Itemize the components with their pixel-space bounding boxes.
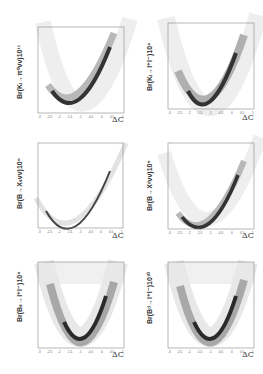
svg-text:-0.5: -0.5 — [88, 350, 94, 354]
svg-text:-1: -1 — [209, 350, 212, 354]
x-axis-label: ΔC — [112, 115, 124, 124]
svg-text:-3: -3 — [168, 111, 171, 115]
svg-text:0: 0 — [231, 350, 233, 354]
x-axis-label: ΔC — [112, 231, 124, 240]
svg-text:-0.5: -0.5 — [218, 231, 224, 235]
svg-text:-2: -2 — [58, 350, 61, 354]
svg-text:-2.5: -2.5 — [177, 111, 183, 115]
x-ticks: -3-2.5-2-1.5-1-0.500.51 — [38, 230, 123, 234]
plot-area: -3-2.5-2-1.5-1-0.500.51 — [168, 143, 254, 229]
svg-text:-2.5: -2.5 — [47, 115, 53, 119]
plot-area: -3-2.5-2-1.5-1-0.500.51 — [38, 262, 124, 348]
panel-bxsnunu: -3-2.5-2-1.5-1-0.500.51 Br(B→Xₛνν)10⁵ ΔC — [38, 143, 123, 228]
x-axis-label: ΔC — [242, 350, 254, 359]
svg-text:-1: -1 — [209, 111, 212, 115]
svg-text:-1: -1 — [209, 231, 212, 235]
plot-area: -3-2.5-2-1.5-1-0.500.51 — [168, 262, 254, 348]
svg-text:-1.5: -1.5 — [197, 231, 203, 235]
plot-area: -3-2.5-2-1.5-1-0.500.51 — [38, 143, 123, 228]
svg-text:-2: -2 — [188, 111, 191, 115]
svg-text:-2: -2 — [58, 230, 61, 234]
panel-kll: -3-2.5-2-1.5-1-0.500.51 Br(Kₗ→l⁺l⁻)10⁹ Δ… — [168, 23, 254, 109]
svg-text:0: 0 — [101, 115, 103, 119]
svg-text:-3: -3 — [38, 350, 41, 354]
svg-text:-1.5: -1.5 — [197, 350, 203, 354]
svg-text:-1.5: -1.5 — [67, 350, 73, 354]
svg-text:0: 0 — [100, 230, 102, 234]
svg-text:-2.5: -2.5 — [177, 231, 183, 235]
y-axis-label: Br(B→Xᵈνν)10⁵ — [146, 160, 153, 211]
panel-bxdnunu: -3-2.5-2-1.5-1-0.500.51 Br(B→Xᵈνν)10⁵ ΔC — [168, 143, 254, 229]
svg-text:0: 0 — [231, 111, 233, 115]
svg-text:-2.5: -2.5 — [47, 230, 53, 234]
panel-klpinunu: -3-2.5-2-1.5-1-0.500.51 Br(Kₗ→π⁰νν)10¹¹ … — [38, 27, 124, 113]
y-axis-label: Br(Bₛ→l⁺l⁻)10⁸ — [16, 272, 24, 322]
svg-text:-1.5: -1.5 — [67, 230, 73, 234]
svg-text:-1.5: -1.5 — [197, 111, 203, 115]
panel-bsll: -3-2.5-2-1.5-1-0.500.51 Br(Bₛ→l⁺l⁻)10⁸ Δ… — [38, 262, 124, 348]
y-axis-label: Br(B→Xₛνν)10⁵ — [16, 158, 24, 209]
svg-text:-2.5: -2.5 — [47, 350, 53, 354]
svg-text:-0.5: -0.5 — [88, 115, 94, 119]
svg-text:-2: -2 — [188, 231, 191, 235]
svg-text:-3: -3 — [168, 350, 171, 354]
svg-text:-1: -1 — [79, 115, 82, 119]
svg-text:0: 0 — [231, 231, 233, 235]
panel-bdll: -3-2.5-2-1.5-1-0.500.51 Br(Bᵈ→l⁺l⁻)10¹⁰ … — [168, 262, 254, 348]
y-axis-label: Br(Kₗ→π⁰νν)10¹¹ — [16, 45, 24, 99]
x-axis-label: ΔC — [112, 350, 124, 359]
svg-text:-2: -2 — [58, 115, 61, 119]
plot-area: -3-2.5-2-1.5-1-0.500.51 — [168, 23, 254, 109]
svg-text:-0.5: -0.5 — [218, 111, 224, 115]
svg-text:-1.5: -1.5 — [67, 115, 73, 119]
x-axis-label: ΔC — [242, 231, 254, 240]
svg-text:-3: -3 — [168, 231, 171, 235]
x-axis-label: ΔC — [242, 113, 254, 122]
svg-text:-0.5: -0.5 — [218, 350, 224, 354]
plot-area: -3-2.5-2-1.5-1-0.500.51 — [38, 27, 124, 113]
svg-text:-2.5: -2.5 — [177, 350, 183, 354]
y-axis-label: Br(Bᵈ→l⁺l⁻)10¹⁰ — [146, 272, 154, 324]
svg-text:-1: -1 — [79, 350, 82, 354]
svg-text:-1: -1 — [79, 230, 82, 234]
svg-text:-3: -3 — [38, 230, 41, 234]
y-axis-label: Br(Kₗ→l⁺l⁻)10⁹ — [146, 43, 154, 92]
svg-text:-3: -3 — [38, 115, 41, 119]
svg-text:-0.5: -0.5 — [88, 230, 94, 234]
svg-text:-2: -2 — [188, 350, 191, 354]
svg-text:0: 0 — [101, 350, 103, 354]
